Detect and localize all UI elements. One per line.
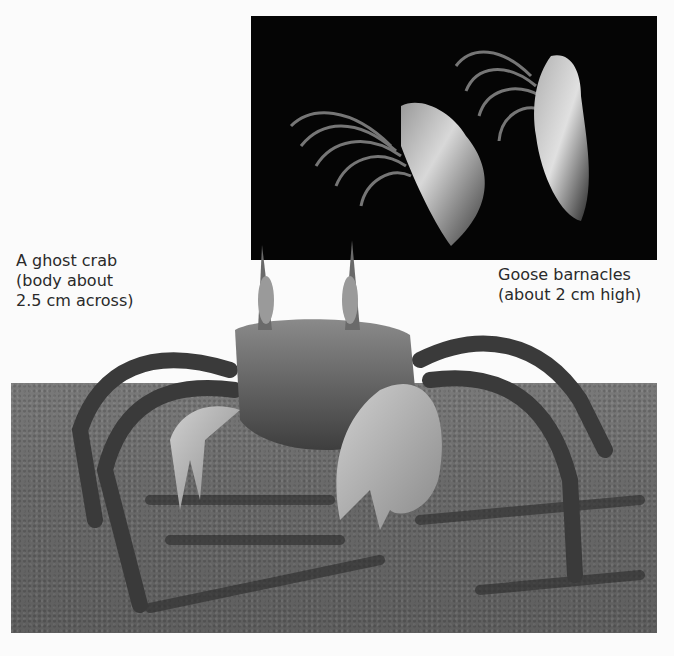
barnacle-caption-line-2: (about 2 cm high): [498, 285, 641, 305]
crab-caption-line-1: A ghost crab: [16, 251, 134, 271]
crab-caption-line-3: 2.5 cm across): [16, 291, 134, 311]
barnacle-caption-line-1: Goose barnacles: [498, 265, 641, 285]
barnacle-caption: Goose barnacles (about 2 cm high): [498, 265, 641, 305]
crab-caption: A ghost crab (body about 2.5 cm across): [16, 251, 134, 311]
ghost-crab-photo: [0, 0, 674, 656]
crab-caption-line-2: (body about: [16, 271, 134, 291]
